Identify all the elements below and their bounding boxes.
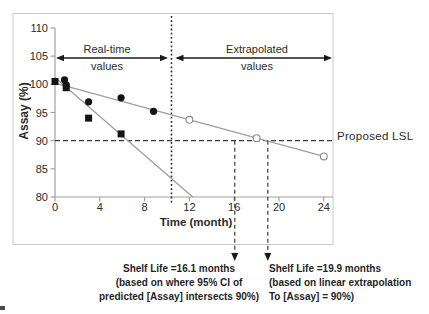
extrapolated-open-circles-marker [253, 135, 260, 142]
annotation-line: To [Assay] = 90%) [269, 290, 429, 304]
proposed-lsl-label: Proposed LSL [337, 130, 414, 142]
shelf-life-chart-figure: 8085909510010511004812162024 Real-time v… [0, 0, 429, 314]
real-time-squares-marker [118, 130, 125, 137]
annotation-line: predicted [Assay] intersects 90%) [82, 290, 276, 304]
real-time-circles-marker [150, 108, 157, 115]
extrapolated-open-circles-marker [320, 153, 327, 160]
annotation-line: (based on where 95% CI of [82, 276, 276, 290]
annotation-line: (based on linear extrapolation [269, 276, 429, 290]
y-axis-title: Assay (%) [17, 56, 33, 166]
y-tick-label: 90 [36, 135, 48, 147]
annotation-shelf-life-extrapolation: Shelf Life =19.9 months (based on linear… [269, 262, 429, 304]
x-tick-label: 8 [142, 201, 148, 213]
annotation-line: Shelf Life =19.9 months [269, 262, 429, 276]
extrapolated-arrow-left-head [176, 55, 184, 61]
x-tick-label: 0 [52, 201, 58, 213]
region-label-extrapolated-line1: Extrapolated [197, 43, 317, 56]
region-label-extrapolated-line2: values [197, 60, 317, 73]
real-time-circles-marker [63, 81, 70, 88]
extrapolated-open-circles-marker [186, 116, 193, 123]
shelf-life-extrapolation-arrowhead [264, 253, 271, 261]
real-time-circles-marker [85, 98, 92, 105]
y-tick-label: 95 [36, 107, 48, 119]
real-time-squares-marker [52, 78, 59, 85]
y-tick-label: 110 [30, 22, 48, 34]
region-label-real-time-line2: values [57, 60, 157, 73]
annotation-shelf-life-ci: Shelf Life =16.1 months (based on where … [82, 262, 276, 304]
extrapolated-arrow-right-head [324, 55, 332, 61]
region-label-real-time-line1: Real-time [57, 43, 157, 56]
x-tick-label: 4 [97, 201, 103, 213]
x-tick-label: 12 [183, 201, 195, 213]
real-time-squares-marker [85, 115, 92, 122]
real-time-arrow-right-head [160, 55, 168, 61]
x-tick-label: 24 [318, 201, 330, 213]
shelf-life-ci-arrowhead [231, 253, 238, 261]
annotation-line: Shelf Life =16.1 months [82, 262, 276, 276]
real-time-circles-marker [117, 94, 124, 101]
stray-mark [0, 306, 5, 310]
y-tick-label: 80 [36, 191, 48, 203]
y-tick-label: 85 [36, 163, 48, 175]
x-tick-label: 20 [273, 201, 285, 213]
x-axis-title: Time (month) [146, 216, 246, 228]
